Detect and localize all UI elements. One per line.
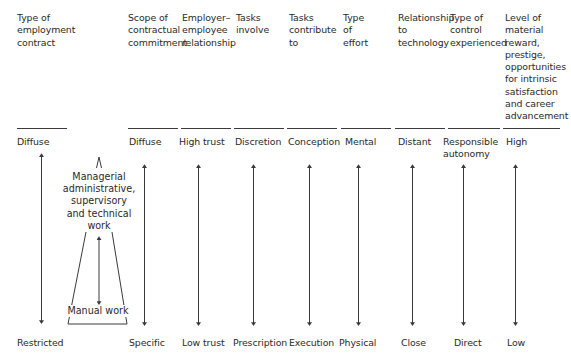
managerial-work-label: Managerial administrative, supervisory a… bbox=[49, 171, 149, 232]
manual-work-label: Manual work bbox=[64, 305, 132, 317]
caret-icon bbox=[97, 157, 102, 168]
